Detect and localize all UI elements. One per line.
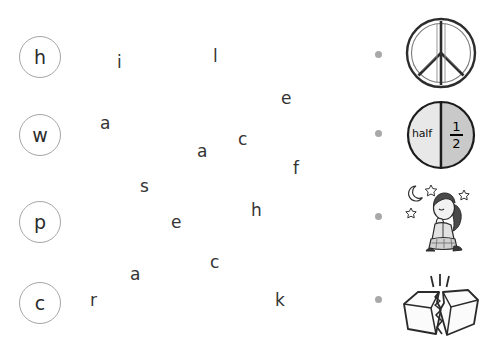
half-circle-fraction-icon[interactable]: half 1 2 xyxy=(404,100,478,170)
letter-circle-label: h xyxy=(34,48,46,67)
worksheet-page: h w p c i l e a c a f s h e c a r k xyxy=(0,0,492,349)
bullet-dot-icon[interactable] xyxy=(375,213,382,220)
scattered-letter[interactable]: c xyxy=(238,131,247,148)
praying-girl-icon[interactable] xyxy=(402,182,480,254)
fraction-denominator: 2 xyxy=(452,136,460,150)
scattered-letter[interactable]: s xyxy=(140,178,149,195)
bullet-dot-icon[interactable] xyxy=(375,130,382,137)
fraction-numerator: 1 xyxy=(452,120,460,134)
fraction-one-half: 1 2 xyxy=(450,120,463,150)
scattered-letter[interactable]: i xyxy=(117,54,122,71)
scattered-letter[interactable]: a xyxy=(100,115,110,132)
scattered-letter[interactable]: a xyxy=(130,266,140,283)
letter-circle-label: w xyxy=(32,126,48,145)
scattered-letter[interactable]: k xyxy=(275,292,285,309)
scattered-letter[interactable]: f xyxy=(293,160,299,177)
scattered-letter[interactable]: e xyxy=(171,214,181,231)
scattered-letter[interactable]: a xyxy=(197,143,207,160)
cracked-box-icon[interactable] xyxy=(398,272,482,342)
scattered-letter[interactable]: e xyxy=(281,90,291,107)
scattered-letter[interactable]: h xyxy=(251,202,262,219)
scattered-letter[interactable]: c xyxy=(210,254,219,271)
half-word-label: half xyxy=(412,127,432,140)
scattered-letter[interactable]: r xyxy=(90,292,97,309)
letter-circle-label: c xyxy=(35,294,45,313)
letter-circle-w[interactable]: w xyxy=(19,114,61,156)
letter-circle-c[interactable]: c xyxy=(19,282,61,324)
bullet-dot-icon[interactable] xyxy=(375,296,382,303)
scattered-letter[interactable]: l xyxy=(213,48,218,65)
peace-symbol-icon[interactable] xyxy=(404,14,478,92)
bullet-dot-icon[interactable] xyxy=(375,51,382,58)
letter-circle-p[interactable]: p xyxy=(19,201,61,243)
letter-circle-h[interactable]: h xyxy=(19,36,61,78)
letter-circle-label: p xyxy=(34,213,46,232)
